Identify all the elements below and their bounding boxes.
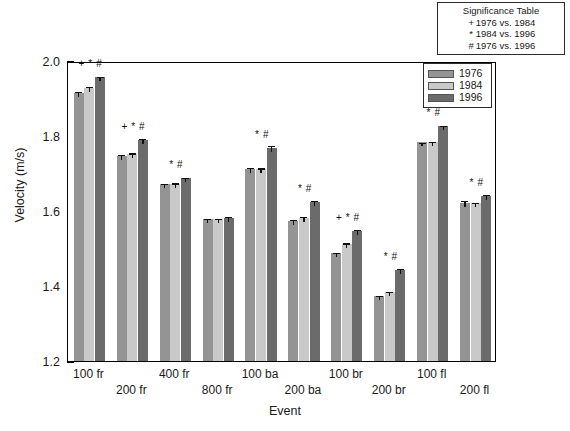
- x-tick-label-200-fr: 200 fr: [101, 384, 161, 396]
- bar-200-fr-1984: [127, 154, 137, 361]
- significance-text-0: 1976 vs. 1984: [476, 17, 536, 28]
- x-tick-label-200-ba: 200 ba: [273, 384, 333, 396]
- y-axis-title: Velocity (m/s): [13, 105, 27, 265]
- significance-marker-100-fl: * #: [419, 108, 449, 118]
- legend-item-1976: 1976: [428, 68, 487, 79]
- x-axis-title: Event: [0, 404, 570, 418]
- bar-400-fr-1976: [160, 184, 170, 361]
- legend-label-1976: 1976: [459, 68, 482, 79]
- significance-marker-400-fr: * #: [161, 160, 191, 170]
- error-bar-cap: [343, 243, 350, 244]
- legend-label-1996: 1996: [459, 92, 482, 103]
- bar-100-ba-1976: [245, 169, 255, 361]
- bar-100-fl-1996: [438, 126, 448, 361]
- bar-200-ba-1976: [288, 221, 298, 361]
- bar-100-ba-1996: [267, 148, 277, 361]
- error-bar-cap: [75, 92, 82, 93]
- y-tick-label: 1.8: [20, 131, 60, 144]
- bar-200-fr-1996: [138, 140, 148, 361]
- y-tick-label: 1.6: [20, 206, 60, 219]
- bar-800-fr-1976: [203, 219, 213, 361]
- significance-marker-200-fr: + * #: [118, 122, 148, 132]
- bar-100-br-1984: [342, 244, 352, 361]
- significance-text-1: 1984 vs. 1996: [476, 28, 536, 39]
- bar-200-fl-1996: [481, 196, 491, 361]
- significance-marker-200-br: * #: [376, 252, 406, 262]
- error-bar-cap: [258, 168, 265, 169]
- y-tick-label: 2.0: [20, 56, 60, 69]
- error-bar-cap: [311, 201, 318, 202]
- error-bar-cap: [472, 203, 479, 204]
- bar-100-fl-1976: [417, 142, 427, 361]
- error-bar-cap: [354, 230, 361, 231]
- x-tick-label-100-ba: 100 ba: [230, 368, 290, 380]
- bar-100-fr-1976: [74, 93, 84, 361]
- significance-marker-100-ba: * #: [247, 130, 277, 140]
- bar-400-fr-1984: [170, 184, 180, 361]
- x-tick-label-100-br: 100 br: [316, 368, 376, 380]
- x-tick-label-800-fr: 800 fr: [187, 384, 247, 396]
- error-bar-cap: [419, 143, 426, 144]
- error-bar-cap: [161, 184, 168, 185]
- bar-100-fr-1996: [95, 77, 105, 361]
- bar-800-fr-1984: [213, 219, 223, 361]
- error-bar-cap: [182, 178, 189, 179]
- significance-marker-200-fl: * #: [462, 178, 492, 188]
- bar-200-fl-1984: [471, 203, 481, 361]
- error-bar-cap: [440, 126, 447, 127]
- significance-table-title: Significance Table: [443, 5, 559, 17]
- x-tick-label-200-br: 200 br: [359, 384, 419, 396]
- significance-symbol-hash: #: [467, 40, 476, 52]
- legend-swatch-1996: [428, 94, 454, 102]
- legend-item-1996: 1996: [428, 92, 487, 103]
- error-bar-cap: [129, 153, 136, 154]
- significance-row-0: +1976 vs. 1984: [443, 17, 559, 29]
- significance-row-2: #1976 vs. 1996: [443, 40, 559, 52]
- bar-200-br-1976: [374, 296, 384, 361]
- error-bar-cap: [172, 183, 179, 184]
- bar-100-fl-1984: [428, 142, 438, 361]
- error-bar-cap: [290, 220, 297, 221]
- bar-200-br-1984: [385, 292, 395, 361]
- significance-row-1: *1984 vs. 1996: [443, 28, 559, 40]
- x-tick-label-400-fr: 400 fr: [144, 368, 204, 380]
- bar-200-ba-1996: [310, 202, 320, 361]
- chart-legend: 1976 1984 1996: [423, 63, 492, 108]
- bar-200-fl-1976: [460, 203, 470, 361]
- legend-item-1984: 1984: [428, 80, 487, 91]
- bar-400-fr-1996: [181, 178, 191, 361]
- legend-swatch-1984: [428, 82, 454, 90]
- bar-100-br-1996: [352, 231, 362, 361]
- bar-200-br-1996: [395, 270, 405, 361]
- error-bar-cap: [429, 142, 436, 143]
- x-tick-label-200-fl: 200 fl: [445, 384, 505, 396]
- significance-symbol-plus: +: [467, 17, 476, 29]
- significance-table: Significance Table +1976 vs. 1984 *1984 …: [437, 2, 565, 55]
- error-bar-cap: [204, 219, 211, 220]
- y-tick-label: 1.2: [20, 356, 60, 369]
- error-bar-cap: [139, 139, 146, 140]
- significance-text-2: 1976 vs. 1996: [476, 40, 536, 51]
- legend-label-1984: 1984: [459, 80, 482, 91]
- error-bar-cap: [386, 292, 393, 293]
- legend-swatch-1976: [428, 70, 454, 78]
- significance-marker-200-ba: * #: [290, 184, 320, 194]
- bar-100-br-1976: [331, 253, 341, 361]
- error-bar-cap: [86, 87, 93, 88]
- error-bar-cap: [461, 201, 468, 202]
- significance-marker-100-fr: + * #: [75, 59, 105, 69]
- bar-100-fr-1984: [84, 88, 94, 361]
- significance-symbol-asterisk: *: [467, 28, 476, 40]
- bar-200-fr-1976: [117, 156, 127, 362]
- error-bar-cap: [225, 217, 232, 218]
- bar-800-fr-1996: [224, 218, 234, 361]
- error-bar-cap: [483, 195, 490, 196]
- x-tick-label-100-fr: 100 fr: [58, 368, 118, 380]
- error-bar-cap: [247, 168, 254, 169]
- error-bar-cap: [397, 269, 404, 270]
- error-bar-cap: [333, 253, 340, 254]
- error-bar-cap: [118, 155, 125, 156]
- bar-100-ba-1984: [256, 169, 266, 361]
- error-bar-cap: [376, 296, 383, 297]
- error-bar-cap: [97, 77, 104, 78]
